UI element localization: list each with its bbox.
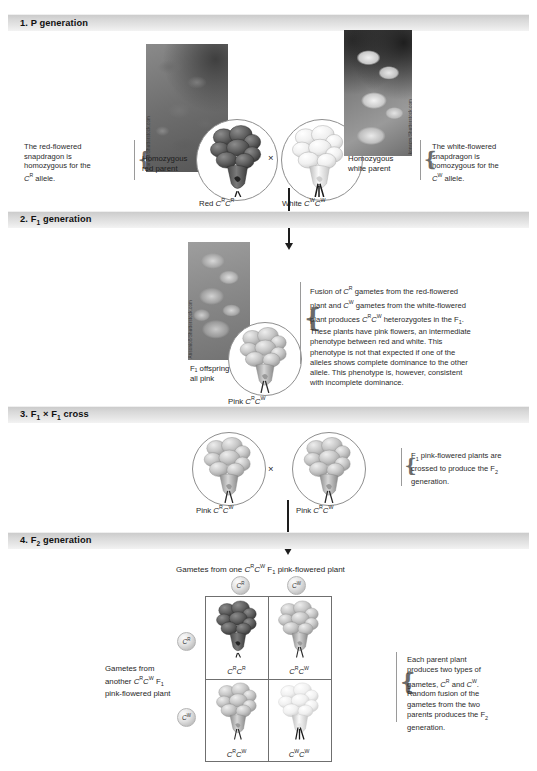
- punnett-cell-genotype-0-1: CRCW: [268, 665, 330, 676]
- punnett-cell-0-1: CRCW: [268, 597, 330, 678]
- p-generation-left-callout: The red-floweredsnapdragon ishomozygous …: [24, 142, 130, 183]
- punnett-square: CRCR CRCW: [205, 596, 332, 762]
- white-snapdragon-illustration: [290, 125, 348, 197]
- right-callout-rule: [420, 140, 421, 180]
- section-header-3: 3. F1 × F1 cross: [8, 406, 529, 423]
- pink-snapdragon-illustration-left: [202, 437, 255, 503]
- red-parent-label: Homozygous red parent: [142, 154, 188, 173]
- white-photo-credit: konspm/Shutterstock.com: [408, 99, 412, 154]
- gamete-bubble-column-1: CW: [287, 576, 306, 595]
- f1-cross-right-circle: [292, 432, 366, 506]
- p-cross-symbol: ×: [268, 152, 274, 163]
- f1-cross-left-genotype: Pink CRCW: [196, 503, 233, 515]
- white-snapdragon-illustration-cell: [277, 682, 322, 740]
- section-2-label: 2. F1 generation: [20, 213, 91, 225]
- f2-side-gamete-source-label: Gametes from another CRCW F1 pink-flower…: [105, 664, 175, 699]
- red-parent-circle-inset: [196, 119, 278, 201]
- punnett-cell-1-1: CWCW: [268, 679, 330, 761]
- f1-cross-callout: F1 pink-flowered plants arecrossed to pr…: [411, 451, 523, 487]
- f1-cross-symbol: ×: [268, 463, 274, 474]
- punnett-cell-genotype-1-0: CRCW: [206, 748, 267, 759]
- punnett-cell-genotype-0-0: CRCR: [206, 665, 267, 676]
- f2-generation-callout: Each parent plant produces two types of …: [407, 655, 525, 733]
- punnett-cell-genotype-1-1: CWCW: [268, 748, 330, 759]
- punnett-cell-1-0: CRCW: [206, 679, 267, 761]
- white-parent-photo: konspm/Shutterstock.com: [344, 30, 412, 156]
- f1-to-f2-arrow-head: [284, 548, 292, 555]
- f1-cross-left-circle: [192, 432, 266, 506]
- f1-callout-rule: [300, 282, 301, 364]
- pink-snapdragon-illustration-cell-2: [215, 682, 260, 740]
- f2-top-gamete-source-label: Gametes from one CRCW F1 pink-flowered p…: [176, 562, 345, 578]
- f1-offspring-label: F₁ offspring all pink: [190, 364, 229, 383]
- f1-cross-callout-rule: [401, 448, 402, 486]
- f2-callout-rule: [396, 652, 397, 722]
- pink-snapdragon-illustration-right: [302, 437, 355, 503]
- pink-snapdragon-illustration-cell-1: [277, 600, 322, 658]
- section-header-2: 2. F1 generation: [8, 211, 529, 228]
- f1-photo-credit: Ansonio8/Shutterstock.com: [188, 300, 193, 358]
- section-header-4: 4. F2 generation: [8, 532, 529, 549]
- red-snapdragon-illustration: [208, 125, 266, 197]
- section-3-label: 3. F1 × F1 cross: [20, 408, 89, 420]
- f1-circle-inset: [228, 322, 302, 396]
- p-to-f1-arrow-head: [285, 243, 293, 250]
- left-callout-rule: [134, 140, 135, 180]
- section-1-label: 1. P generation: [20, 17, 88, 27]
- section-4-label: 4. F2 generation: [20, 534, 91, 546]
- white-parent-label: Homozygous white parent: [348, 154, 394, 173]
- red-parent-genotype: Red CRCR: [199, 196, 234, 208]
- f1-generation-callout: Fusion of CR gametes from the red-flower…: [310, 283, 536, 389]
- gamete-bubble-row-0: CR: [177, 632, 196, 651]
- punnett-cell-0-0: CRCR: [206, 597, 267, 678]
- section-header-1: 1. P generation: [8, 14, 529, 31]
- red-snapdragon-illustration-cell: [215, 600, 260, 658]
- p-generation-right-callout: The white-floweredsnapdragon ishomozygou…: [432, 142, 536, 183]
- pink-snapdragon-illustration: [238, 327, 291, 393]
- f1-genotype: Pink CRCW: [228, 394, 265, 406]
- f1-cross-right-genotype: Pink CRCW: [296, 503, 333, 515]
- gamete-bubble-column-0: CR: [231, 576, 250, 595]
- gamete-bubble-row-1: CW: [177, 708, 196, 727]
